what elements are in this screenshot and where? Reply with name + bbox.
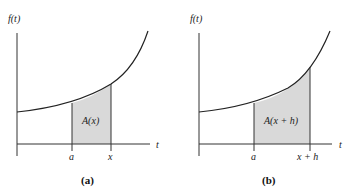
area-label-b: A(x + h) — [263, 115, 299, 127]
panel-a: f(t) t a x A(x) (a) — [8, 13, 159, 187]
tick-a-b: a — [251, 151, 256, 162]
y-axis-label-a: f(t) — [8, 13, 21, 25]
panel-b: f(t) t a x + h A(x + h) (b) — [190, 13, 342, 187]
area-label-a: A(x) — [81, 115, 100, 127]
shaded-area-a — [72, 84, 111, 144]
tick-xh-b: x + h — [296, 151, 318, 162]
tick-a-a: a — [69, 151, 74, 162]
tick-x-a: x — [107, 151, 113, 162]
x-axis-label-a: t — [156, 139, 159, 150]
x-axis-label-b: t — [339, 139, 342, 150]
caption-a: (a) — [81, 174, 94, 187]
caption-b: (b) — [262, 174, 276, 187]
shaded-area-b — [254, 67, 310, 144]
figure: f(t) t a x A(x) (a) f(t) t a x + h A(x +… — [0, 0, 352, 192]
y-axis-label-b: f(t) — [190, 13, 203, 25]
